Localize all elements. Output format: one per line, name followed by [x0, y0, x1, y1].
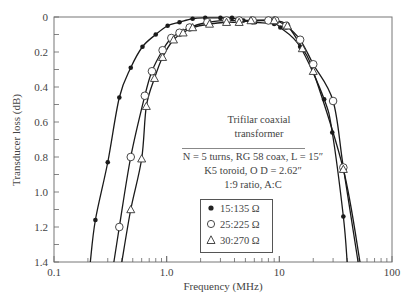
y-axis-ticks: 00.20.40.60.81.01.21.4 — [34, 11, 59, 268]
x-axis-title: Frequency (MHz) — [183, 280, 262, 293]
open-circle-marker — [141, 92, 149, 100]
open-triangle-marker — [127, 206, 135, 213]
y-axis-title: Transducer loss (dB) — [10, 94, 23, 186]
annotation-divider — [182, 148, 305, 149]
open-circle-marker — [127, 153, 135, 161]
filled-circle-marker — [93, 218, 98, 223]
filled-circle-marker — [140, 44, 145, 49]
filled-circle-marker — [177, 20, 182, 25]
y-tick-label: 1.2 — [34, 221, 48, 233]
y-tick-label: 1.0 — [34, 186, 48, 198]
legend: 15:135 Ω 25:225 Ω 30:270 Ω — [200, 199, 273, 253]
y-tick-label: 0 — [43, 11, 49, 23]
filled-circle-marker — [105, 160, 110, 165]
x-tick-label: 10 — [274, 266, 286, 278]
filled-circle-marker — [190, 16, 195, 21]
filled-circle-marker — [278, 25, 283, 30]
open-triangle-marker — [138, 155, 146, 162]
annotation-title-line1: Trifilar coaxial — [200, 113, 318, 127]
y-tick-label: 0.6 — [34, 116, 48, 128]
filled-circle-marker — [165, 23, 170, 28]
filled-circle-marker — [322, 97, 327, 102]
legend-label: 25:225 Ω — [220, 219, 260, 230]
x-tick-label: 100 — [384, 266, 401, 278]
legend-item-25-225: 25:225 Ω — [201, 216, 272, 232]
legend-item-15-135: 15:135 Ω — [201, 200, 272, 216]
legend-item-30-270: 30:270 Ω — [201, 232, 272, 248]
open-circle-icon — [205, 218, 217, 230]
legend-label: 30:270 Ω — [220, 235, 260, 246]
filled-circle-marker — [330, 130, 335, 135]
x-axis-ticks: 0.11.010100 — [47, 256, 401, 278]
y-tick-label: 1.4 — [34, 256, 48, 268]
filled-circle-marker — [341, 214, 346, 219]
annotation-line3: 1:9 ratio, A:C — [178, 178, 328, 192]
annotation-line2: K5 toroid, O D = 2.62″ — [178, 164, 328, 178]
x-tick-label: 1.0 — [160, 266, 174, 278]
open-circle-marker — [116, 223, 124, 231]
annotation-title-line2: transformer — [200, 127, 318, 141]
y-tick-label: 0.2 — [34, 46, 48, 58]
filled-circle-marker — [218, 16, 223, 21]
open-triangle-icon — [205, 234, 217, 246]
y-tick-label: 0.4 — [34, 81, 48, 93]
y-tick-label: 0.8 — [34, 151, 48, 163]
annotation-line1: N = 5 turns, RG 58 coax, L = 15″ — [178, 150, 328, 164]
filled-circle-marker — [117, 95, 122, 100]
annotation-title: Trifilar coaxial transformer — [200, 113, 318, 141]
legend-label: 15:135 Ω — [220, 203, 260, 214]
x-tick-label: 0.1 — [47, 266, 61, 278]
annotation-body: N = 5 turns, RG 58 coax, L = 15″ K5 toro… — [178, 150, 328, 192]
filled-circle-icon — [205, 202, 217, 214]
open-circle-marker — [296, 36, 304, 44]
filled-circle-marker — [128, 65, 133, 70]
filled-circle-marker — [153, 32, 158, 37]
open-circle-marker — [329, 97, 337, 105]
